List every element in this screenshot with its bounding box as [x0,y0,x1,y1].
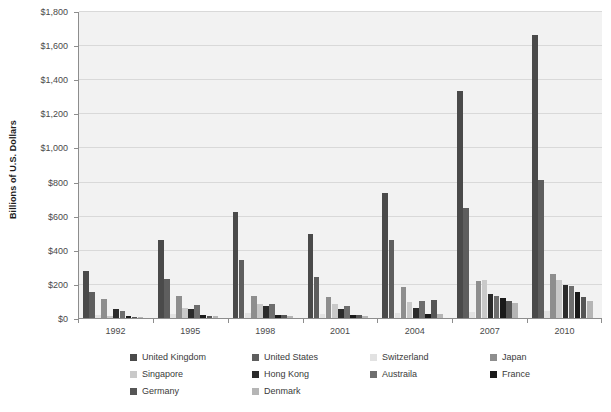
bar [89,292,95,318]
bar [326,297,332,318]
bar [138,317,144,318]
bar [407,302,413,318]
legend-swatch-icon [252,371,259,378]
bar [550,274,556,318]
bar [269,304,275,318]
bar [176,296,182,318]
y-axis-tick-label: $1,800 [40,7,68,17]
bar [482,280,488,318]
legend-item[interactable]: United States [252,352,318,362]
legend-swatch-icon [370,354,377,361]
bar-group [229,12,304,318]
legend-item[interactable]: Switzerland [370,352,429,362]
bar [425,314,431,318]
legend-item[interactable]: Singapore [130,369,183,379]
bar [308,234,314,318]
legend-item[interactable]: France [490,369,530,379]
legend-label: Austraila [382,369,417,379]
bar [164,279,170,318]
bar [500,298,506,318]
bar [538,180,544,318]
legend-label: Denmark [264,386,301,396]
chart-figure: Billions of U.S. Dollars $0$200$400$600$… [0,0,611,412]
bar [332,304,338,318]
bar [188,309,194,318]
bar [158,240,164,318]
x-axis-tick-label: 2001 [330,326,350,336]
legend-label: Switzerland [382,352,429,362]
bar [213,316,219,318]
y-axis-tick-label: $200 [48,280,68,290]
bar [251,296,257,318]
bar [194,305,200,318]
bar [120,311,126,318]
legend-swatch-icon [130,371,137,378]
legend-item[interactable]: Austraila [370,369,417,379]
legend-label: France [502,369,530,379]
bar [463,208,469,318]
bar-series-container [79,12,602,318]
legend-swatch-icon [252,354,259,361]
bar [281,315,287,318]
legend-swatch-icon [252,388,259,395]
x-axis-tick-label: 1992 [105,326,125,336]
legend-swatch-icon [130,354,137,361]
bar [587,301,593,318]
legend-swatch-icon [130,388,137,395]
y-axis-tick-label: $1,000 [40,143,68,153]
x-axis-tick-label: 2007 [480,326,500,336]
y-axis-tick-label: $400 [48,246,68,256]
x-axis-tick-label: 1998 [255,326,275,336]
bar [569,286,575,318]
bar-group [154,12,229,318]
bar [419,301,425,318]
y-axis-tick-label: $1,400 [40,75,68,85]
bar [437,314,443,318]
bar [476,281,482,318]
legend-label: Singapore [142,369,183,379]
bar [506,301,512,318]
y-axis-tick-label: $600 [48,212,68,222]
bar [532,35,538,318]
legend-item[interactable]: United Kingdom [130,352,206,362]
bar [170,314,176,318]
bar [356,315,362,318]
y-axis-tick-label: $1,200 [40,109,68,119]
bar [563,285,569,318]
bar [132,317,138,318]
bar [389,240,395,318]
bar [245,313,251,318]
bar [544,311,550,318]
bar [488,294,494,318]
bar [382,193,388,318]
bar [469,312,475,318]
bar [95,315,101,318]
legend-label: Germany [142,386,179,396]
bar [413,308,419,318]
bar [126,316,132,318]
bar-group [378,12,453,318]
legend-swatch-icon [490,354,497,361]
bar [83,271,89,318]
bar [457,91,463,318]
legend-item[interactable]: Hong Kong [252,369,309,379]
bar [233,212,239,318]
legend-item[interactable]: Germany [130,386,179,396]
y-axis-tick-labels: $0$200$400$600$800$1,000$1,200$1,400$1,6… [0,12,74,319]
bar [431,300,437,318]
legend-label: Hong Kong [264,369,309,379]
bar [362,316,368,318]
legend-label: United States [264,352,318,362]
bar-group [453,12,528,318]
bar [101,299,107,318]
legend-item[interactable]: Denmark [252,386,301,396]
bar [556,280,562,318]
plot-area [78,12,602,319]
bar [350,315,356,318]
y-axis-tick-label: $800 [48,178,68,188]
x-axis-tick-label: 2010 [555,326,575,336]
bar [338,309,344,318]
legend-item[interactable]: Japan [490,352,527,362]
bar-group [528,12,603,318]
bar [581,297,587,318]
